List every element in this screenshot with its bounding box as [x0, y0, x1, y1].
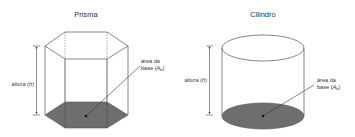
prism-centroid-dot — [85, 115, 87, 117]
cylinder-centroid-dot — [262, 115, 264, 117]
cylinder-base-label-line1: área da — [317, 77, 337, 83]
prism-base-label-line1: área da — [141, 58, 161, 64]
prism-figure: Prisma altura (h) área da base (Ab) — [12, 10, 165, 128]
cylinder-figure: Cilindro altura (h) área da base (Ab) — [185, 10, 341, 129]
prism-base-label-line2: base (Ab) — [141, 65, 165, 72]
cylinder-title: Cilindro — [250, 10, 275, 19]
cylinder-height-label: altura (h) — [185, 77, 208, 83]
geometry-diagram: Prisma altura (h) área da base (Ab) Cili… — [0, 0, 355, 137]
cylinder-top-face — [222, 35, 304, 61]
cylinder-base-label-line2: base (Ab) — [317, 84, 341, 91]
prism-top-face — [45, 32, 128, 59]
prism-title: Prisma — [74, 10, 98, 19]
prism-height-label: altura (h) — [12, 81, 35, 87]
